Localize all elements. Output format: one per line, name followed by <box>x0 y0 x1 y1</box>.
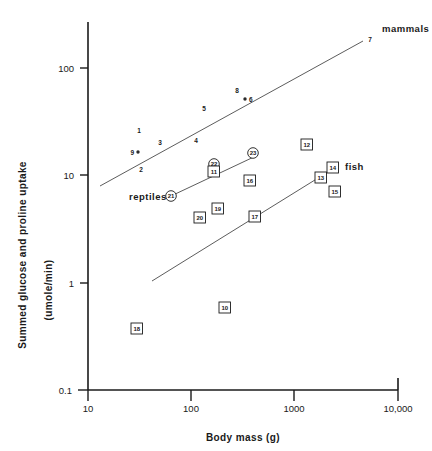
annotation-mammals: mammals <box>382 23 429 34</box>
point-label-fish-13: 13 <box>317 175 324 181</box>
x-axis-title: Body mass (g) <box>206 432 280 443</box>
point-mammals-9-dot <box>136 150 139 153</box>
scatter-plot-svg: 100 10 1 0.1 10 100 1000 10,000 Body mas… <box>0 0 432 451</box>
point-label-fish-14: 14 <box>329 165 336 171</box>
point-label-mammals-6: 6 <box>249 96 253 103</box>
point-label-mammals-9: 9 <box>130 149 134 156</box>
point-label-mammals-4: 4 <box>194 137 198 144</box>
x-tick-label-100: 100 <box>183 403 199 414</box>
y-tick-label-100: 100 <box>58 63 74 74</box>
point-label-fish-16: 16 <box>246 178 253 184</box>
point-label-fish-12: 12 <box>303 142 310 148</box>
x-axis-ticks: 10 100 1000 10,000 <box>83 390 413 414</box>
point-label-fish-11: 11 <box>211 169 218 175</box>
point-label-mammals-3: 3 <box>158 139 162 146</box>
x-tick-label-10000: 10,000 <box>383 403 412 414</box>
annotation-reptiles: reptiles <box>129 191 167 202</box>
point-label-mammals-7: 7 <box>368 36 372 43</box>
point-label-fish-19: 19 <box>214 206 221 212</box>
point-label-mammals-1: 1 <box>137 127 141 134</box>
annotation-fish: fish <box>345 161 364 172</box>
point-mammals-6-dot <box>243 97 246 100</box>
point-label-fish-15: 15 <box>331 189 338 195</box>
trendlines <box>100 41 363 281</box>
y-tick-label-1: 1 <box>69 278 74 289</box>
series-reptiles: 21 22 23 reptiles <box>129 148 258 202</box>
axes <box>88 22 398 390</box>
point-label-reptiles-23: 23 <box>250 150 257 156</box>
point-label-mammals-8: 8 <box>235 87 239 94</box>
y-axis-title-line1: Summed glucose and proline uptake <box>17 161 28 349</box>
x-tick-label-10: 10 <box>83 403 94 414</box>
y-axis-ticks: 100 10 1 0.1 <box>58 63 88 396</box>
point-label-fish-17: 17 <box>251 214 258 220</box>
trendline-fish <box>152 170 331 281</box>
x-tick-label-1000: 1000 <box>283 403 304 414</box>
series-mammals: 9 1 2 3 4 5 8 6 7 mammals <box>130 23 429 173</box>
y-axis-title-line2: (umole/min) <box>43 259 54 320</box>
point-label-fish-10: 10 <box>221 305 228 311</box>
point-label-mammals-2: 2 <box>139 166 143 173</box>
y-tick-label-10: 10 <box>63 170 74 181</box>
trendline-mammals <box>100 41 363 186</box>
point-label-fish-20: 20 <box>196 215 203 221</box>
point-label-reptiles-21: 21 <box>168 193 175 199</box>
point-label-fish-18: 18 <box>133 326 140 332</box>
chart-figure: 100 10 1 0.1 10 100 1000 10,000 Body mas… <box>0 0 432 451</box>
y-tick-label-0-1: 0.1 <box>59 385 72 396</box>
point-label-mammals-5: 5 <box>202 105 206 112</box>
series-fish: 11 16 12 14 13 15 19 20 17 10 18 fish <box>131 139 364 334</box>
